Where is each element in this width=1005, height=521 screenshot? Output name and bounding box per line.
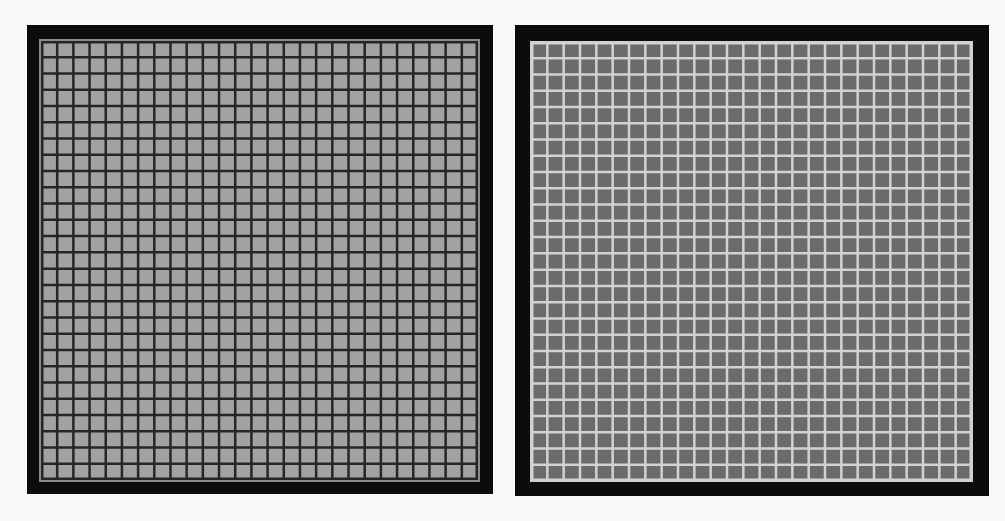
grid-left-svg [41, 41, 478, 480]
light-lines-grid [530, 41, 973, 482]
grid-right-svg [531, 42, 972, 481]
dark-lines-grid [39, 39, 480, 482]
left-grid-panel [27, 25, 493, 494]
right-grid-panel [515, 25, 989, 496]
